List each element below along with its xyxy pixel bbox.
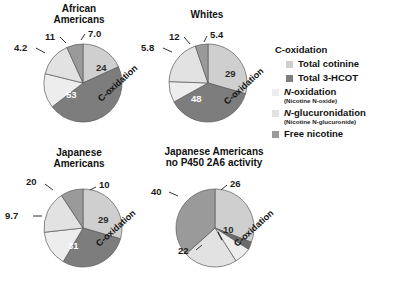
panel-title-japanese-americans-no-p450-2a6: Japanese Americans no P450 2A6 activity	[134, 146, 294, 168]
pie-svg-whites	[167, 42, 249, 124]
legend-label-total-3hcot: Total 3-HCOT	[298, 73, 358, 83]
pie-svg-japanese-americans-no-p450-2a6	[174, 187, 256, 269]
pie-japanese-americans-no-p450-2a6	[174, 187, 256, 269]
label-total-cotinine: 29	[225, 68, 236, 79]
legend-label-free-nicotine: Free nicotine	[284, 129, 343, 139]
label-n-glucuronidation: 11	[45, 31, 55, 42]
legend-swatch-n-oxidation	[272, 89, 279, 96]
legend-italic-n-glucuronidation: N	[284, 107, 291, 118]
panel-title-whites: Whites	[127, 9, 287, 20]
legend-label-n-glucuronidation-text: -glucuronidation	[291, 107, 366, 118]
legend-italic-n-oxidation: N	[284, 86, 291, 97]
label-total-cotinine: 24	[96, 62, 107, 73]
legend: C-oxidation Total cotinine Total 3-HCOT …	[272, 44, 396, 143]
legend-label-n-oxidation-text: -oxidation	[291, 86, 336, 97]
nicotine-metabolism-figure: African Americans	[0, 0, 397, 292]
pie-panel-african-americans: African Americans	[0, 0, 160, 145]
label-n-oxidation: 10	[223, 224, 234, 235]
label-n-oxidation: 9.7	[5, 210, 18, 221]
legend-swatch-total-3hcot	[286, 75, 293, 82]
legend-sublabel-n-glucuronidation: (Nicotine N-glucuronide)	[284, 118, 366, 125]
label-free-nicotine: 5.4	[210, 29, 223, 40]
label-n-oxidation: 5.8	[141, 42, 154, 53]
label-n-oxidation: 4.2	[14, 42, 27, 53]
legend-item-n-glucuronidation: N-glucuronidation (Nicotine N-glucuronid…	[272, 108, 396, 125]
legend-item-free-nicotine: Free nicotine	[272, 129, 396, 139]
label-free-nicotine: 7.0	[88, 28, 101, 39]
legend-label-n-glucuronidation: N-glucuronidation (Nicotine N-glucuronid…	[284, 108, 366, 125]
label-free-nicotine: 40	[151, 186, 162, 197]
pie-whites	[167, 42, 249, 124]
legend-item-total-cotinine: Total cotinine	[272, 59, 396, 69]
pie-panel-japanese-americans-no-p450-2a6: Japanese Americans no P450 2A6 activity	[140, 146, 300, 292]
label-n-glucuronidation: 22	[178, 245, 189, 256]
label-free-nicotine: 10	[99, 179, 110, 190]
label-total-3hcot: 53	[66, 89, 77, 100]
pie-panel-whites: Whites 5.4 12 5.8 29 48 C-oxidation	[140, 0, 280, 145]
legend-sublabel-n-oxidation: (Nicotine N-oxide)	[284, 97, 337, 104]
label-total-3hcot: 48	[191, 93, 202, 104]
legend-swatch-total-cotinine	[286, 61, 293, 68]
legend-heading: C-oxidation	[275, 44, 396, 55]
legend-label-n-oxidation: N-oxidation (Nicotine N-oxide)	[284, 87, 337, 104]
legend-swatch-n-glucuronidation	[272, 110, 279, 117]
legend-item-total-3hcot: Total 3-HCOT	[272, 73, 396, 83]
label-n-glucuronidation: 20	[26, 176, 37, 187]
legend-label-total-cotinine: Total cotinine	[298, 59, 359, 69]
label-n-glucuronidation: 12	[169, 31, 180, 42]
legend-item-n-oxidation: N-oxidation (Nicotine N-oxide)	[272, 87, 396, 104]
label-total-cotinine: 26	[230, 178, 241, 189]
legend-swatch-free-nicotine	[272, 131, 279, 138]
label-total-3hcot: 31	[68, 240, 79, 251]
label-total-cotinine: 29	[98, 214, 109, 225]
